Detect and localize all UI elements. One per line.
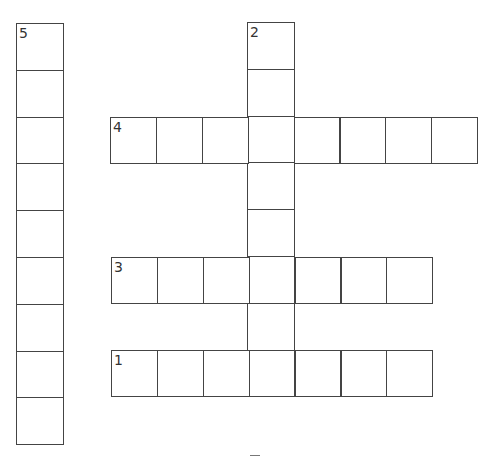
crossword-grid: 52431 [0,0,495,460]
word-4-cell-2[interactable] [156,117,203,164]
word-5-cell-9[interactable] [16,397,64,445]
word-4-cell-1[interactable]: 4 [110,117,157,164]
word-4-cell-8[interactable] [431,117,478,164]
word-3-cell-7[interactable] [386,257,433,304]
word-2-cell-7[interactable] [247,303,295,351]
word-1-cell-3[interactable] [203,350,250,397]
clue-number: 2 [250,24,259,40]
word-2-cell-2[interactable] [247,69,295,117]
word-2-cell-5[interactable] [247,209,295,257]
word-3-cell-3[interactable] [203,257,250,304]
word-5-cell-1[interactable]: 5 [16,23,64,71]
clue-number: 3 [114,259,123,275]
clue-number: 4 [113,119,122,135]
clue-number: 1 [114,352,123,368]
word-4-cell-3[interactable] [202,117,249,164]
word-5-cell-4[interactable] [16,163,64,211]
word-1-cell-7[interactable] [386,350,433,397]
scan-mark [250,455,260,456]
word-1-cell-2[interactable] [157,350,204,397]
word-2-cell-8[interactable] [247,350,295,398]
word-3-cell-1[interactable]: 3 [111,257,158,304]
word-5-cell-3[interactable] [16,117,64,165]
word-3-cell-5[interactable] [295,257,342,304]
clue-number: 5 [19,25,28,41]
word-4-cell-7[interactable] [385,117,432,164]
word-2-cell-3[interactable] [247,116,295,164]
word-4-cell-6[interactable] [340,117,387,164]
word-5-cell-7[interactable] [16,304,64,352]
word-5-cell-5[interactable] [16,210,64,258]
word-4-cell-5[interactable] [294,117,341,164]
word-3-cell-2[interactable] [157,257,204,304]
word-2-cell-6[interactable] [247,256,295,304]
word-5-cell-6[interactable] [16,257,64,305]
word-2-cell-1[interactable]: 2 [247,22,295,70]
word-1-cell-5[interactable] [295,350,342,397]
word-5-cell-2[interactable] [16,70,64,118]
word-1-cell-1[interactable]: 1 [111,350,158,397]
word-1-cell-6[interactable] [341,350,388,397]
word-3-cell-6[interactable] [341,257,388,304]
word-2-cell-4[interactable] [247,162,295,210]
word-5-cell-8[interactable] [16,351,64,399]
